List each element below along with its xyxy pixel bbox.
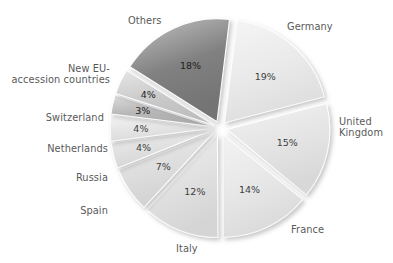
pie-chart: 19%15%14%12%7%4%4%3%4%18% GermanyUnited … bbox=[0, 0, 393, 263]
pie-percent-label-switzerland: 3% bbox=[135, 105, 150, 116]
pie-percent-label-france: 14% bbox=[239, 184, 260, 195]
pie-category-label-russia: Russia bbox=[56, 172, 108, 183]
pie-percent-label-new-eu-accession-countries: 4% bbox=[141, 89, 156, 100]
pie-category-label-united-kingdom: United Kingdom bbox=[339, 116, 383, 139]
pie-svg: 19%15%14%12%7%4%4%3%4%18% bbox=[0, 0, 393, 263]
pie-category-label-italy: Italy bbox=[176, 243, 198, 254]
pie-percent-label-netherlands: 4% bbox=[133, 123, 148, 134]
pie-category-label-others: Others bbox=[128, 15, 162, 26]
pie-category-label-new-eu-accession-countries: New EU- accession countries bbox=[2, 63, 110, 86]
pie-percent-label-spain: 7% bbox=[156, 161, 171, 172]
pie-category-label-netherlands: Netherlands bbox=[38, 143, 108, 154]
pie-percent-label-united-kingdom: 15% bbox=[277, 137, 298, 148]
pie-category-label-france: France bbox=[291, 224, 324, 235]
pie-percent-label-others: 18% bbox=[180, 60, 201, 71]
pie-percent-label-russia: 4% bbox=[136, 142, 151, 153]
pie-category-label-germany: Germany bbox=[287, 21, 333, 32]
pie-category-label-switzerland: Switzerland bbox=[38, 112, 104, 123]
pie-percent-label-italy: 12% bbox=[184, 186, 205, 197]
pie-category-label-spain: Spain bbox=[66, 205, 108, 216]
pie-percent-label-germany: 19% bbox=[255, 71, 276, 82]
